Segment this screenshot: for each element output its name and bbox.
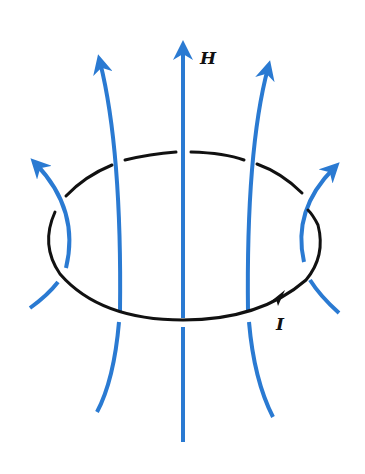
- field-label-H: H: [199, 48, 217, 68]
- field-lines: [30, 48, 339, 442]
- field-line-left-inner-upper: [100, 62, 120, 312]
- field-line-left-outer-lower: [30, 282, 58, 308]
- field-line-right-inner-upper: [248, 68, 268, 312]
- current-loop-diagram: H I: [0, 0, 365, 474]
- current-label-I: I: [275, 314, 285, 334]
- field-line-right-outer-lower: [310, 280, 339, 313]
- field-line-right-outer-upper: [301, 168, 334, 262]
- field-line-right-inner-lower: [249, 322, 273, 417]
- field-line-left-inner-lower: [97, 322, 119, 412]
